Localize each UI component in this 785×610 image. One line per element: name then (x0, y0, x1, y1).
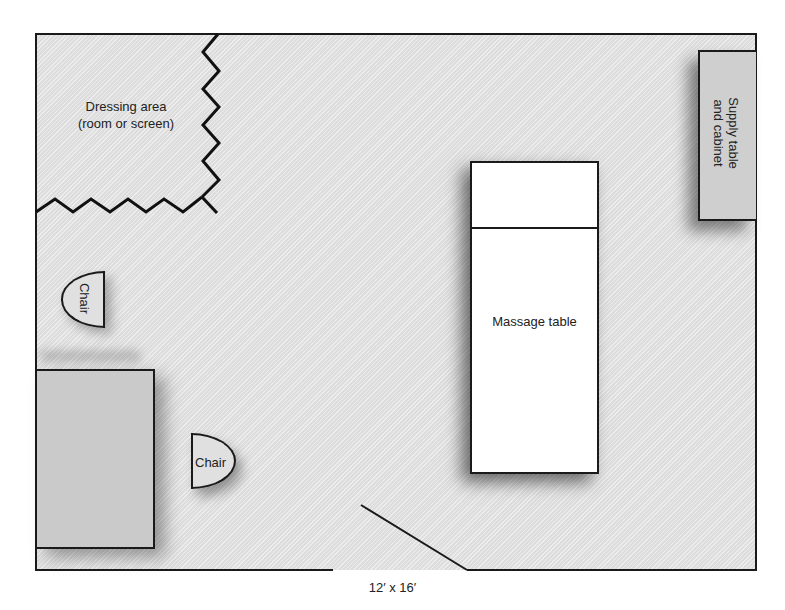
supply-label-line1: Supply table (726, 88, 741, 178)
room-size-caption: 12′ x 16′ (0, 580, 785, 595)
dressing-area-line2: (room or screen) (56, 115, 196, 132)
massage-table: Massage table (470, 161, 599, 474)
dressing-area-line1: Dressing area (56, 98, 196, 115)
supply-table-cabinet: Supply table and cabinet (698, 50, 756, 221)
dressing-area-label: Dressing area (room or screen) (56, 98, 196, 132)
chair-desk-label: Chair (195, 454, 231, 471)
door (361, 505, 467, 570)
massage-table-headrest-divider (472, 227, 597, 229)
supply-table-label: Supply table and cabinet (711, 88, 741, 178)
massage-table-label: Massage table (472, 313, 597, 330)
chair-left-label: Chair (77, 274, 92, 324)
partition-tail (202, 197, 217, 213)
dressing-partition-horizontal (36, 197, 202, 212)
dressing-partition-vertical (202, 34, 219, 197)
desk (37, 369, 155, 549)
supply-label-line2: and cabinet (711, 88, 726, 178)
